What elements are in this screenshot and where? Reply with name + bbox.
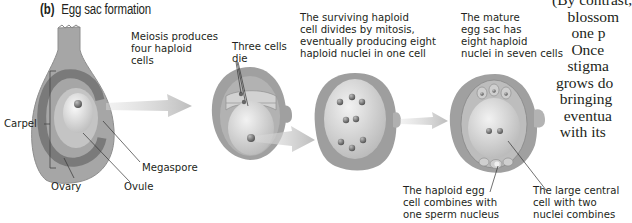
arrow-step-3-to-4 xyxy=(400,112,448,129)
megaspore-stage-illustration xyxy=(212,62,292,160)
caption-three-cells-die: Three cells die xyxy=(232,41,287,65)
label-haploid-egg-cell: The haploid egg cell combines with one s… xyxy=(403,185,499,221)
caption-mature-egg-sac: The mature egg sac has eight haploid nuc… xyxy=(461,12,563,60)
label-ovary: Ovary xyxy=(51,181,81,193)
arrow-step-1-to-2 xyxy=(106,94,192,117)
clipped-body-text: (By contrast, blossom one p Once stigma … xyxy=(552,0,632,141)
label-central-cell: The large central cell with two nuclei c… xyxy=(533,185,619,221)
label-carpel: Carpel xyxy=(4,118,37,130)
label-megaspore: Megaspore xyxy=(142,162,198,174)
eight-nuclei-illustration xyxy=(315,73,401,171)
mature-egg-sac-illustration xyxy=(450,74,546,192)
caption-mitosis: The surviving haploid cell divides by mi… xyxy=(300,12,436,60)
label-ovule: Ovule xyxy=(124,181,153,193)
caption-meiosis: Meiosis produces four haploid cells xyxy=(131,31,218,67)
